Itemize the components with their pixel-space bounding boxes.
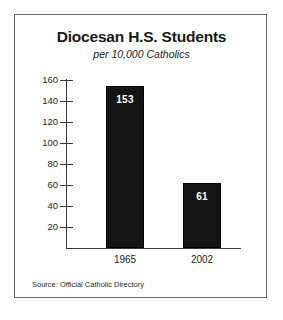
bar-2002[interactable]: 61 <box>183 183 221 248</box>
bar-1965[interactable]: 153 <box>106 86 144 248</box>
y-tick-20 <box>60 227 73 228</box>
y-tick-40 <box>60 206 73 207</box>
y-tick-label-60: 60 <box>24 180 58 190</box>
bar-value-1965: 153 <box>107 94 143 105</box>
y-tick-label-160: 160 <box>24 75 58 85</box>
y-tick-label-20: 20 <box>24 222 58 232</box>
y-tick-label-80: 80 <box>24 159 58 169</box>
chart-figure: Diocesan H.S. Students per 10,000 Cathol… <box>0 0 283 320</box>
y-tick-label-40: 40 <box>24 201 58 211</box>
x-axis-line <box>66 248 241 249</box>
y-tick-120 <box>60 122 73 123</box>
y-tick-label-120: 120 <box>24 117 58 127</box>
bar-value-2002: 61 <box>184 191 220 202</box>
y-tick-140 <box>60 101 73 102</box>
plot-area: 160 140 120 100 80 60 40 20 153 61 <box>15 15 268 299</box>
y-tick-label-100: 100 <box>24 138 58 148</box>
y-tick-80 <box>60 164 73 165</box>
chart-frame: Diocesan H.S. Students per 10,000 Cathol… <box>14 14 267 298</box>
x-tick-label-2002: 2002 <box>167 254 237 265</box>
x-tick-label-1965: 1965 <box>90 254 160 265</box>
y-tick-100 <box>60 143 73 144</box>
y-tick-160 <box>60 80 73 81</box>
y-tick-60 <box>60 185 73 186</box>
source-note: Source: Official Catholic Directory <box>32 280 144 289</box>
y-tick-label-140: 140 <box>24 96 58 106</box>
